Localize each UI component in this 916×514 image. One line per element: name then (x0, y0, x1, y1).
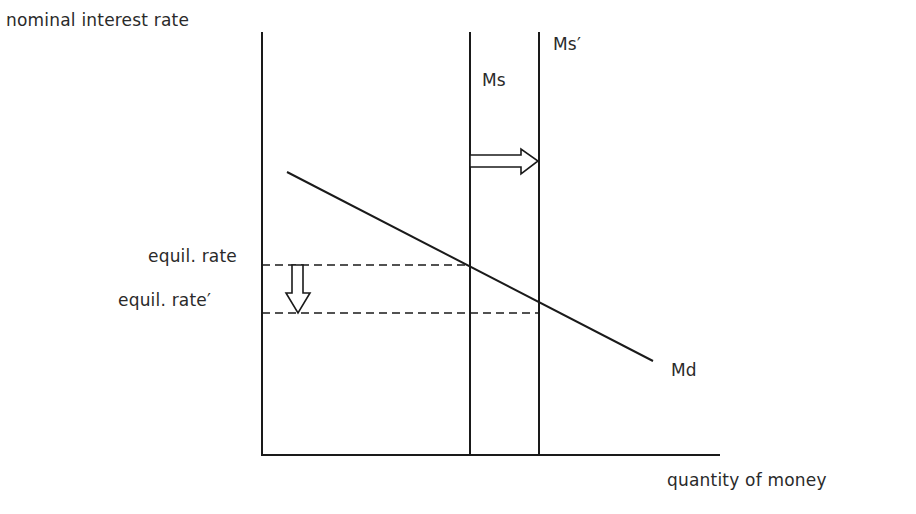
x-axis-label: quantity of money (667, 470, 827, 490)
ms-prime-label: Ms′ (553, 34, 581, 54)
y-axis-label: nominal interest rate (6, 10, 189, 30)
equil-rate-label: equil. rate (148, 246, 237, 266)
arrow-down-icon (286, 265, 310, 313)
ms-label: Ms (482, 70, 506, 90)
money-market-diagram (0, 0, 916, 514)
equil-rate-prime-label: equil. rate′ (118, 290, 211, 310)
arrow-right-icon (470, 149, 538, 174)
md-label: Md (671, 360, 697, 380)
